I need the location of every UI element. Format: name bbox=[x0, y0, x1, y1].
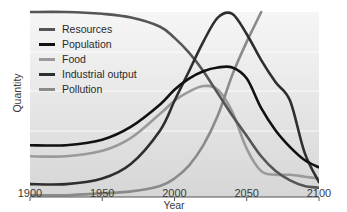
x-tick-label: 2100 bbox=[307, 187, 331, 199]
chart: 19001950200020502100 Year Quantity Resou… bbox=[0, 0, 347, 212]
svg-text:Food: Food bbox=[62, 53, 86, 65]
legend-swatch-icon bbox=[39, 88, 55, 91]
svg-text:Resources: Resources bbox=[62, 23, 112, 35]
svg-text:Population: Population bbox=[62, 38, 112, 50]
legend-swatch-icon bbox=[39, 58, 55, 61]
x-tick-label: 2000 bbox=[162, 187, 186, 199]
legend-swatch-icon bbox=[39, 73, 55, 76]
y-axis-label: Quantity bbox=[11, 73, 23, 113]
legend-swatch-icon bbox=[39, 43, 55, 46]
x-tick-label: 1900 bbox=[18, 187, 42, 199]
svg-text:Pollution: Pollution bbox=[62, 83, 102, 95]
x-tick-label: 2050 bbox=[235, 187, 259, 199]
x-tick-label: 1950 bbox=[90, 187, 114, 199]
svg-text:Industrial output: Industrial output bbox=[62, 68, 137, 80]
x-axis-label: Year bbox=[163, 199, 185, 211]
legend-swatch-icon bbox=[39, 28, 55, 31]
